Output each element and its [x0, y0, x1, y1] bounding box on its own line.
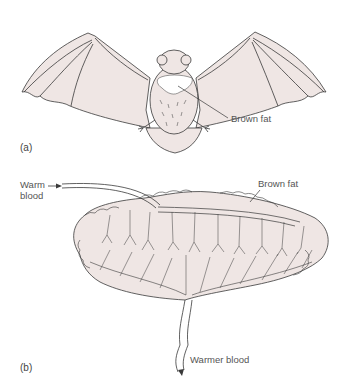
bat-left-ear	[157, 55, 167, 65]
warmer-blood-label: Warmer blood	[190, 354, 249, 365]
brown-fat-label-a: Brown fat	[231, 113, 271, 124]
panel-label-a: (a)	[20, 142, 32, 153]
warmer-blood-arrowhead	[178, 369, 184, 376]
tissue-outer-boundary	[74, 192, 329, 300]
brown-fat-tissue	[62, 183, 328, 372]
brown-fat-label-b: Brown fat	[258, 178, 298, 189]
warm-blood-label-line1: Warm	[20, 179, 45, 190]
panel-label-b: (b)	[20, 362, 32, 373]
diagram-canvas	[0, 0, 349, 384]
bat-right-ear	[181, 55, 191, 65]
warm-blood-arrowhead	[56, 184, 62, 189]
warm-blood-label-line2: blood	[20, 190, 43, 201]
